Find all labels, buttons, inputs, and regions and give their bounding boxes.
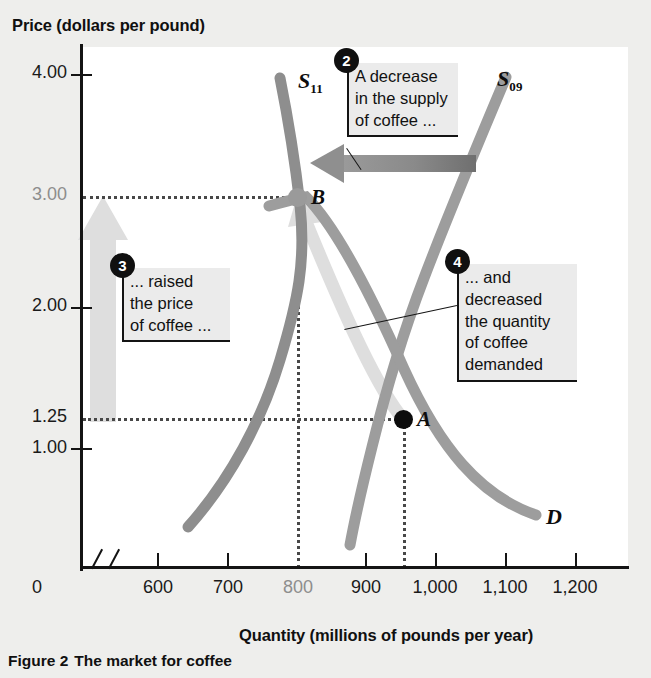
y-axis-title: Price (dollars per pound): [12, 16, 205, 35]
guide-line-price-125: [83, 418, 403, 421]
x-tick-label-1000: 1,000: [400, 577, 470, 598]
curve-label-s11-subscript: 11: [310, 81, 323, 96]
x-tick-900: [365, 553, 367, 569]
callout-3-line-2: the price: [130, 293, 223, 315]
curve-label-s11-letter: S: [298, 68, 310, 93]
callout-4-line-4: of coffee: [465, 332, 570, 354]
curve-label-d: D: [546, 504, 562, 530]
equilibrium-point-b-dot: [288, 188, 307, 207]
callout-2-box: A decrease in the supply of coffee ...: [347, 63, 458, 137]
callout-3-line-3: of coffee ...: [130, 315, 223, 337]
x-tick-label-1200: 1,200: [540, 577, 610, 598]
x-tick-1200: [575, 553, 577, 569]
callout-4-line-1: ... and: [465, 267, 570, 289]
x-tick-600: [157, 553, 159, 569]
y-tick-200: [71, 307, 92, 309]
x-tick-700: [227, 553, 229, 569]
callout-4-badge: 4: [445, 249, 470, 274]
callout-4-line-3: the quantity: [465, 311, 570, 333]
curve-label-s09-letter: S: [497, 66, 509, 91]
x-tick-label-900: 900: [331, 577, 401, 598]
equilibrium-point-a-dot: [394, 410, 413, 429]
guide-line-price-3: [83, 196, 297, 199]
callout-2-line-1: A decrease: [355, 66, 451, 88]
figure-caption-text: The market for coffee: [74, 652, 232, 669]
y-tick-label-200: 2.00: [5, 295, 67, 316]
y-tick-400: [71, 74, 92, 76]
callout-4-line-2: decreased: [465, 289, 570, 311]
x-origin-label: 0: [22, 577, 52, 598]
callout-4-line-5: demanded: [465, 354, 570, 376]
y-tick-label-125: 1.25: [5, 406, 67, 427]
x-tick-label-800: 800: [263, 577, 333, 598]
curve-label-s09: S09: [497, 66, 523, 95]
y-tick-label-400: 4.00: [5, 62, 67, 83]
callout-3-line-1: ... raised: [130, 271, 223, 293]
guide-line-quantity-950: [403, 419, 406, 568]
x-tick-1100: [505, 553, 507, 569]
curve-label-s11: S11: [298, 68, 323, 97]
figure-caption-number: Figure 2: [8, 652, 68, 669]
x-tick-label-1100: 1,100: [470, 577, 540, 598]
x-tick-label-600: 600: [123, 577, 193, 598]
callout-2-line-3: of coffee ...: [355, 110, 451, 132]
x-axis-line: [80, 566, 629, 569]
figure-caption: Figure 2The market for coffee: [8, 652, 232, 670]
callout-3-badge: 3: [110, 253, 135, 278]
y-tick-label-300: 3.00: [5, 184, 67, 205]
callout-4-box: ... and decreased the quantity of coffee…: [457, 264, 577, 382]
callout-2-badge: 2: [334, 48, 359, 73]
x-axis-title: Quantity (millions of pounds per year): [239, 626, 533, 645]
callout-2-line-2: in the supply: [355, 88, 451, 110]
figure-container: Price (dollars per pound) Quantity (mill…: [0, 0, 651, 678]
curve-label-s09-subscript: 09: [509, 79, 523, 94]
y-tick-label-100: 1.00: [5, 437, 67, 458]
equilibrium-point-b-label: B: [311, 185, 325, 210]
callout-3-box: ... raised the price of coffee ...: [122, 268, 230, 342]
x-tick-1000: [435, 553, 437, 569]
equilibrium-point-a-label: A: [417, 407, 431, 432]
guide-line-quantity-800: [297, 197, 300, 568]
y-tick-100: [71, 448, 92, 450]
x-tick-label-700: 700: [193, 577, 263, 598]
